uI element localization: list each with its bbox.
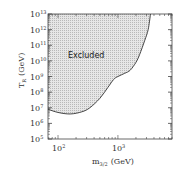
x-tick-labels: 102103 xyxy=(52,143,125,153)
x-tick-label: 102 xyxy=(52,143,65,153)
y-tick-label: 108 xyxy=(30,87,43,97)
y-tick-label: 1013 xyxy=(30,9,47,19)
x-tick-label: 103 xyxy=(112,143,125,153)
y-tick-label: 109 xyxy=(30,72,43,82)
y-axis-label: TR(GeV) xyxy=(17,53,27,88)
excluded-label: Excluded xyxy=(68,51,104,60)
y-tick-label: 1010 xyxy=(30,56,47,66)
exclusion-plot: 1013101210111010109108107106105 102103 E… xyxy=(0,0,179,171)
x-axis-label: m3/2(GeV) xyxy=(92,157,134,167)
y-tick-label: 106 xyxy=(30,118,43,128)
y-tick-label: 105 xyxy=(30,134,43,144)
y-tick-label: 1011 xyxy=(30,40,47,50)
y-tick-label: 107 xyxy=(30,103,43,113)
y-tick-labels: 1013101210111010109108107106105 xyxy=(30,9,47,144)
y-tick-label: 1012 xyxy=(30,25,47,35)
